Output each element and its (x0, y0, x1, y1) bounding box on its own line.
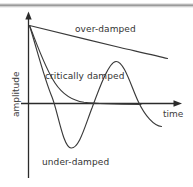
figure-container: time amplitude over-damped critically da… (0, 0, 193, 187)
x-axis-label: time (163, 109, 184, 119)
y-axis (25, 12, 31, 179)
curve-critically-damped (30, 26, 142, 105)
top-rule (0, 0, 193, 7)
y-axis-label: amplitude (11, 71, 21, 117)
x-axis-arrowhead (174, 100, 183, 107)
label-under-damped: under-damped (42, 157, 109, 167)
label-over-damped: over-damped (75, 24, 136, 34)
label-critically-damped: critically damped (45, 71, 125, 81)
y-axis-arrowhead (25, 12, 31, 20)
damping-curves-figure: time amplitude over-damped critically da… (0, 0, 193, 187)
curve-under-damped (30, 26, 162, 149)
